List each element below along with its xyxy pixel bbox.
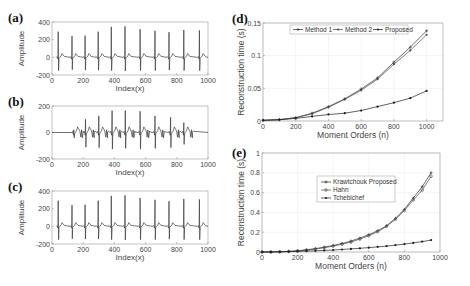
ecg-plot-reconstructed: 02004006008001000-2000200400Index(x)Ampl…	[17, 188, 216, 263]
y-tick-label: 0.2	[250, 229, 260, 236]
x-tick-label: 1000	[200, 161, 216, 168]
y-tick-label: 1	[256, 150, 260, 157]
reconstruction-time-chart-e: 0200400600800100000.20.40.60.81Moment Or…	[236, 150, 448, 272]
y-tick-label: 0.8	[250, 169, 260, 176]
panel-label-c: (c)	[8, 179, 22, 194]
legend-entry: Method 1	[305, 26, 332, 33]
y-tick-label: 0	[46, 223, 50, 230]
panel-a: (a) 02004006008001000-2000200400Index(x)…	[8, 10, 216, 93]
panel-e: (e) 0200400600800100000.20.40.60.81Momen…	[232, 145, 448, 271]
x-tick-label: 200	[77, 246, 89, 253]
x-tick-label: 400	[109, 77, 121, 84]
y-tick-label: 0	[257, 118, 261, 125]
legend: Krawtchouk ProposedHahnTchebichef	[317, 176, 397, 202]
y-tick-label: -200	[36, 72, 50, 79]
y-tick-label: 200	[38, 103, 50, 110]
y-tick-label: 400	[38, 19, 50, 26]
panel-c: (c) 02004006008001000-2000200400Index(x)…	[8, 179, 216, 262]
y-tick-label: 0.1	[251, 52, 261, 59]
reconstruction-time-chart-d: 0200400600800100000.050.10.15Moment Orde…	[236, 20, 443, 141]
y-tick-label: 0.15	[247, 20, 261, 27]
x-tick-label: 800	[171, 246, 183, 253]
x-tick-label: 200	[77, 77, 89, 84]
y-axis-label: Amplitude	[17, 199, 26, 235]
y-tick-label: -200	[36, 156, 50, 163]
x-tick-label: 400	[323, 123, 335, 130]
x-tick-label: 600	[363, 254, 375, 261]
x-tick-label: 400	[327, 254, 339, 261]
x-tick-label: 0	[50, 77, 54, 84]
x-tick-label: 0	[261, 123, 265, 130]
x-tick-label: 600	[140, 246, 152, 253]
x-tick-label: 800	[388, 123, 400, 130]
x-tick-label: 600	[355, 123, 367, 130]
x-tick-label: 400	[109, 161, 121, 168]
x-tick-label: 1000	[200, 77, 216, 84]
y-axis-label: Amplitude	[17, 114, 26, 150]
x-axis-label: Moment Orders (n)	[315, 261, 387, 271]
y-tick-label: 0.4	[250, 209, 260, 216]
x-tick-label: 1000	[432, 254, 448, 261]
y-tick-label: 0.6	[250, 189, 260, 196]
legend-entry: Hahn	[333, 186, 349, 193]
y-axis-label: Amplitude	[17, 30, 26, 66]
x-tick-label: 600	[140, 77, 152, 84]
panel-label-d: (d)	[232, 11, 248, 26]
x-tick-label: 0	[260, 254, 264, 261]
x-axis-label: Index(x)	[116, 253, 145, 262]
x-tick-label: 200	[292, 254, 304, 261]
legend-entry: Krawtchouk Proposed	[333, 178, 397, 186]
x-axis-label: Moment Orders (n)	[317, 130, 389, 140]
x-tick-label: 0	[50, 161, 54, 168]
y-tick-label: 0	[256, 249, 260, 256]
panel-label-a: (a)	[8, 10, 23, 25]
panel-label-e: (e)	[232, 145, 246, 160]
x-tick-label: 1000	[200, 246, 216, 253]
panel-label-b: (b)	[8, 94, 24, 109]
x-tick-label: 0	[50, 246, 54, 253]
x-tick-label: 200	[77, 161, 89, 168]
ecg-plot-noisy: 02004006008001000-2000200Index(x)Amplitu…	[17, 103, 216, 178]
y-tick-label: 200	[38, 36, 50, 43]
panel-d: (d) 0200400600800100000.050.10.15Moment …	[232, 11, 443, 140]
y-tick-label: 0	[46, 54, 50, 61]
y-tick-label: 200	[38, 205, 50, 212]
y-tick-label: 0	[46, 129, 50, 136]
y-tick-label: 0.05	[247, 85, 261, 92]
y-axis-label: Reconstruction time (s)	[236, 159, 246, 247]
panel-b: (b) 02004006008001000-2000200Index(x)Amp…	[8, 94, 216, 177]
figure: (a) 02004006008001000-2000200400Index(x)…	[0, 0, 470, 286]
x-tick-label: 800	[399, 254, 411, 261]
y-axis-label: Reconstruction time (s)	[236, 28, 246, 116]
x-tick-label: 1000	[419, 123, 435, 130]
ecg-plot-original: 02004006008001000-2000200400Index(x)Ampl…	[17, 19, 216, 94]
legend-entry: Tchebichef	[333, 194, 364, 201]
x-tick-label: 200	[290, 123, 302, 130]
legend: Method 1Method 2Proposed	[290, 25, 413, 34]
y-tick-label: -200	[36, 241, 50, 248]
x-axis-label: Index(x)	[116, 84, 145, 93]
legend-entry: Proposed	[385, 26, 413, 34]
x-axis-label: Index(x)	[116, 168, 145, 177]
x-tick-label: 600	[140, 161, 152, 168]
legend-entry: Method 2	[345, 26, 372, 33]
x-tick-label: 400	[109, 246, 121, 253]
y-tick-label: 400	[38, 188, 50, 195]
x-tick-label: 800	[171, 77, 183, 84]
x-tick-label: 800	[171, 161, 183, 168]
